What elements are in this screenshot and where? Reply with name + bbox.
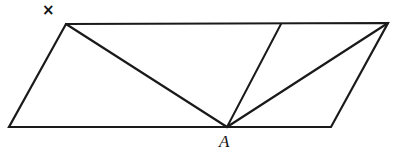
segment-a-to-top-right bbox=[227, 23, 388, 127]
parallelogram-outline bbox=[9, 23, 388, 127]
cross-marker-icon: × bbox=[42, 3, 55, 18]
vertex-label-a: A bbox=[219, 133, 229, 150]
segment-a-to-top-left bbox=[66, 24, 227, 127]
figure-canvas bbox=[0, 0, 399, 156]
segment-a-to-top-mid bbox=[227, 24, 281, 127]
geometry-figure: × A bbox=[0, 0, 399, 156]
